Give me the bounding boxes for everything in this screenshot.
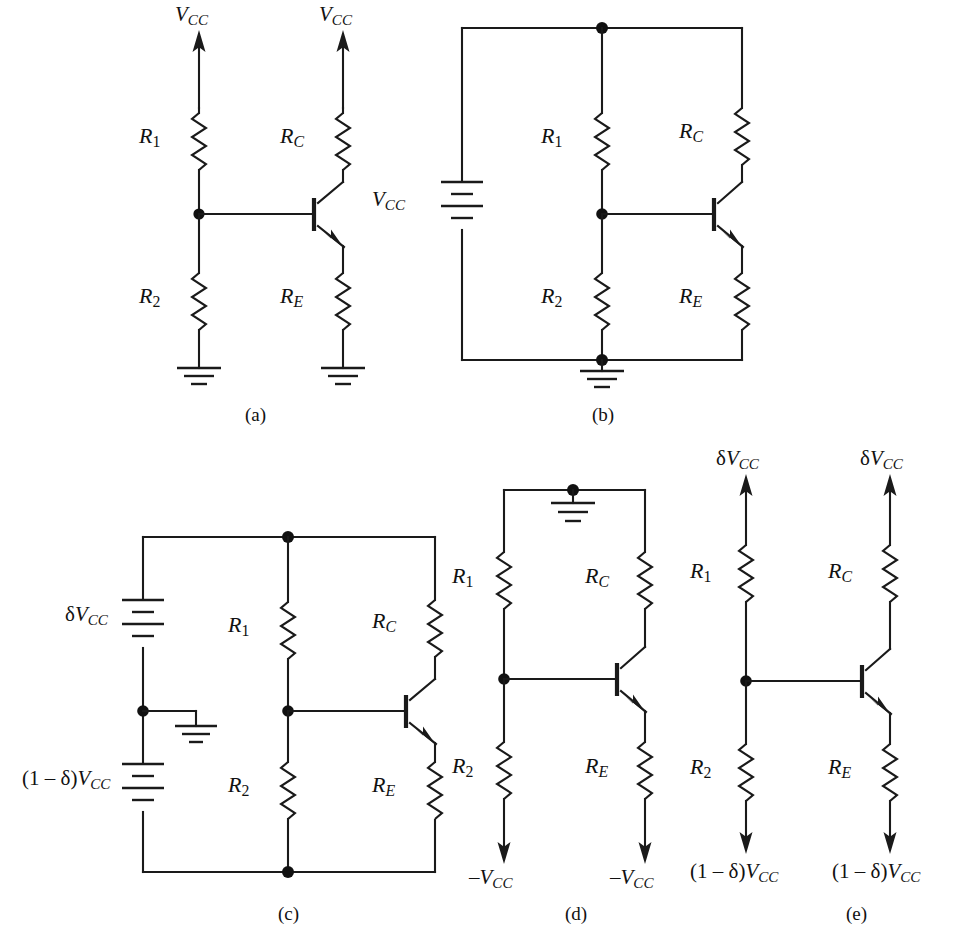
panel-a-resistor-re	[336, 246, 350, 368]
panel-a-resistor-r1	[192, 108, 206, 213]
panel-c-resistor-r2	[281, 711, 295, 872]
panel-a-supply-arrow-right	[337, 30, 350, 108]
panel-c-delta-vcc-label: δVCC	[65, 604, 108, 628]
panel-d-minus-vcc-label-left: –VCC	[469, 867, 512, 891]
panel-b-resistor-r1	[595, 28, 609, 213]
panel-a-resistor-r2	[192, 214, 206, 368]
panel-b-re-label: RE	[679, 285, 702, 310]
panel-c-letter: (c)	[278, 903, 299, 925]
panel-c-rc-label: RC	[372, 610, 396, 635]
panel-c-ground	[175, 726, 217, 742]
panel-d-minus-vcc-label-right: –VCC	[610, 867, 653, 891]
panel-a-letter: (a)	[245, 404, 266, 426]
panel-e-resistor-re	[883, 713, 897, 854]
panel-d-rc-label: RC	[585, 565, 609, 590]
panel-c-one-minus-delta-vcc-label: (1 – δ)VCC	[22, 768, 110, 792]
panel-b-resistor-rc	[735, 108, 749, 182]
panel-b-vcc-label: VCC	[372, 189, 405, 213]
panel-b-resistor-r2	[595, 214, 609, 360]
panel-a-resistor-rc	[336, 108, 350, 182]
panel-b-battery	[441, 182, 483, 218]
panel-e-supply-arrow-left	[740, 474, 753, 545]
panel-a-re-label: RE	[280, 285, 303, 310]
panel-e-r2-label: R2	[690, 756, 711, 781]
panel-e-resistor-r1	[739, 545, 753, 680]
panel-c-circuit	[122, 531, 442, 878]
panel-a-circuit	[177, 30, 365, 384]
panel-d-transistor	[617, 647, 646, 713]
panel-a-ground-left	[177, 368, 221, 384]
panel-c-resistor-re	[428, 743, 442, 819]
panel-e-one-minus-delta-vcc-label-left: (1 – δ)VCC	[690, 861, 778, 885]
panel-e-delta-vcc-label-left: δVCC	[716, 448, 759, 472]
panel-e-letter: (e)	[846, 903, 867, 925]
panel-c-transistor	[406, 679, 436, 745]
panel-a-vcc-label-left: VCC	[175, 4, 208, 28]
panel-a-supply-arrow-left	[193, 30, 206, 108]
panel-d-r2-label: R2	[452, 755, 473, 780]
panel-c-battery-top	[122, 600, 164, 636]
panel-d-letter: (d)	[565, 903, 587, 925]
panel-b-letter: (b)	[592, 404, 614, 426]
panel-c-bottom-node	[282, 866, 294, 878]
panel-c-battery-bottom	[122, 764, 164, 800]
panel-e-resistor-rc	[883, 545, 897, 649]
panel-b-rc-label: RC	[679, 120, 703, 145]
panel-a-rc-label: RC	[280, 125, 304, 150]
panel-e-rc-label: RC	[828, 560, 852, 585]
panel-d-resistor-re	[638, 711, 652, 864]
panel-d-re-label: RE	[585, 755, 608, 780]
panel-e-r1-label: R1	[690, 560, 711, 585]
panel-c-r2-label: R2	[228, 774, 249, 799]
panel-d-resistor-r1	[497, 490, 511, 678]
panel-a-r2-label: R2	[139, 285, 160, 310]
panel-a-r1-label: R1	[139, 125, 160, 150]
figure-sheet: VCC VCC R1 RC R2 RE (a) VCC R1 RC R2 RE …	[0, 0, 960, 935]
panel-b-resistor-re	[735, 246, 749, 330]
panel-d-circuit	[497, 484, 652, 864]
panel-c-resistor-r1	[281, 537, 295, 710]
panel-b-r1-label: R1	[541, 125, 562, 150]
panel-a-vcc-label-right: VCC	[319, 4, 352, 28]
panel-b-ground	[580, 360, 624, 387]
panel-d-ground	[551, 503, 595, 521]
panel-d-r1-label: R1	[452, 565, 473, 590]
panel-e-delta-vcc-label-right: δVCC	[860, 448, 903, 472]
panel-c-resistor-rc	[428, 600, 442, 679]
panel-b-circuit	[441, 22, 749, 387]
panel-e-one-minus-delta-vcc-label-right: (1 – δ)VCC	[832, 861, 920, 885]
panel-b-r2-label: R2	[541, 285, 562, 310]
panel-e-resistor-r2	[739, 681, 753, 854]
panel-d-resistor-r2	[497, 679, 511, 864]
panel-e-transistor	[862, 649, 891, 715]
panel-b-transistor	[714, 182, 743, 248]
panel-c-r1-label: R1	[228, 614, 249, 639]
panel-e-re-label: RE	[828, 756, 851, 781]
panel-e-supply-arrow-right	[884, 474, 897, 545]
panel-d-resistor-rc	[638, 490, 652, 647]
panel-e-circuit	[739, 474, 897, 854]
panel-a-ground-right	[321, 368, 365, 384]
panel-c-re-label: RE	[372, 774, 395, 799]
panel-a-transistor	[314, 182, 344, 248]
